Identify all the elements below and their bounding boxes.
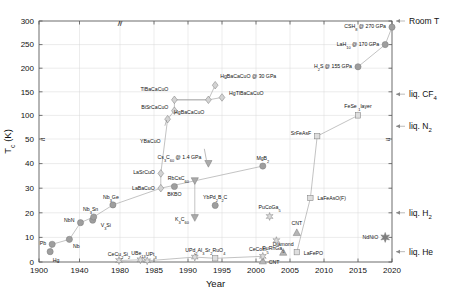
point-label-ybacuo: YBaCuO	[140, 138, 160, 144]
data-point-cnt-high	[293, 229, 300, 236]
svg-text:1980: 1980	[111, 266, 129, 275]
svg-text:Room T: Room T	[409, 16, 439, 26]
point-label-sr2ruo4: Sr2RuO4	[205, 247, 226, 256]
svg-text:250: 250	[21, 40, 35, 49]
point-label-bkbo: BKBO	[167, 191, 181, 197]
data-point-tlbacacuo	[172, 96, 178, 104]
point-label-lafepo: LaFePO	[304, 250, 323, 256]
point-label-pucoga5: PuCoGa5	[259, 204, 281, 213]
svg-text:liq. CF4: liq. CF4	[409, 89, 438, 101]
svg-text:Year: Year	[206, 278, 225, 289]
data-point-sr2ruo4	[213, 256, 218, 261]
point-label-srfeasf: SrFeAsF	[291, 130, 311, 136]
svg-text:300: 300	[21, 17, 35, 26]
point-label-fese1layer: FeSe 1layer	[344, 103, 372, 112]
point-label-hg: Hg	[53, 257, 60, 263]
svg-text:1940: 1940	[71, 266, 89, 275]
point-label-nbn: NbN	[64, 217, 75, 223]
data-point-h2s	[355, 64, 361, 70]
superconductor-timeline-chart: 1900194019801985199019952000200520102015…	[0, 0, 454, 299]
svg-text:10: 10	[25, 233, 34, 242]
svg-text:2020: 2020	[383, 266, 401, 275]
svg-text:30: 30	[25, 184, 34, 193]
svg-text:100: 100	[21, 111, 35, 120]
svg-text:Tc (K): Tc (K)	[2, 129, 16, 154]
point-label-cnt-high: CNT	[291, 220, 302, 226]
data-point-srfeasf	[315, 133, 320, 138]
point-label-bisrcacuo: BiSrCaCuO	[141, 104, 168, 110]
point-label-lasrcuo: LaSrCuO	[133, 169, 155, 175]
data-point-lafeasof	[308, 195, 313, 200]
point-label-nb3ge: Nb3Ge	[103, 194, 119, 203]
point-label-cs3c60: Cs3C60 @ 1.4 GPa	[158, 154, 202, 163]
svg-text:2005: 2005	[281, 266, 299, 275]
data-point-hg	[47, 249, 53, 255]
svg-text:≈: ≈	[386, 135, 391, 144]
svg-text:20: 20	[25, 209, 34, 218]
point-label-mgb2: MgB2	[256, 155, 269, 164]
svg-text:≈: ≈	[41, 135, 46, 144]
data-point-labacuo	[158, 184, 164, 192]
svg-text:liq. N2: liq. N2	[409, 121, 432, 133]
chart-svg: 1900194019801985199019952000200520102015…	[0, 0, 454, 299]
point-label-hgbacacuo30gpa: HgBaCaCuO @ 30 GPa	[220, 73, 276, 79]
point-label-hgtlbacacuo: HgTlBaCaCuO	[229, 90, 264, 96]
svg-text://: //	[118, 19, 123, 28]
point-label-pb: Pb	[40, 240, 46, 246]
svg-text:2010: 2010	[315, 266, 333, 275]
svg-text:2015: 2015	[349, 266, 367, 275]
svg-text:2000: 2000	[247, 266, 265, 275]
svg-text:liq. He: liq. He	[409, 247, 433, 257]
point-label-rbcsc60: RbCsC60	[168, 175, 190, 184]
data-point-nb3sn	[91, 214, 97, 220]
point-label-nb3sn: Nb3Sn	[83, 206, 98, 215]
data-point-pucoga5	[266, 213, 273, 221]
point-label-tlbacacuo: TlBaCaCuO	[140, 86, 168, 92]
svg-text:200: 200	[21, 64, 35, 73]
point-label-nbc: V3Si	[101, 222, 111, 231]
svg-text:40: 40	[25, 159, 34, 168]
point-label-nb: Nb	[73, 243, 80, 249]
data-point-lah10	[382, 42, 388, 48]
data-point-k3c60	[191, 215, 198, 222]
svg-text:1990: 1990	[179, 266, 197, 275]
svg-text:1995: 1995	[213, 266, 231, 275]
point-label-h2s: H2S @ 155 GPa	[314, 63, 352, 72]
point-label-ndnio: NdNiO	[363, 234, 379, 240]
data-point-lafepo	[294, 249, 299, 254]
point-label-cnt-low: CNT	[269, 259, 280, 265]
data-point-pb	[49, 241, 55, 247]
svg-text:150: 150	[21, 88, 35, 97]
svg-text:0: 0	[30, 258, 35, 267]
point-label-csh8: CSH8 @ 270 GPa	[344, 23, 386, 32]
data-point-ybpd2b2c	[212, 202, 218, 208]
point-label-labacuo: LaBaCuO	[132, 185, 155, 191]
data-point-fese1layer	[355, 113, 360, 118]
data-point-nbn	[77, 220, 83, 226]
svg-text:50: 50	[25, 135, 34, 144]
point-label-hgbacacuo: HgBaCaCuO	[174, 109, 204, 115]
data-point-nb	[66, 236, 72, 242]
point-label-ybpd2b2c: YbPd2B2C	[203, 194, 228, 203]
data-point-hgtlbacacuo	[219, 94, 225, 102]
svg-text:1900: 1900	[30, 266, 48, 275]
data-point-csh8	[389, 24, 395, 30]
svg-text:liq. H2: liq. H2	[409, 208, 432, 220]
data-point-hgbacacuo	[206, 96, 212, 104]
point-label-ube13: UBe13	[131, 250, 145, 259]
data-point-nb3ge	[110, 202, 116, 208]
data-point-lasrcuo	[158, 170, 164, 178]
data-point-mgb2	[260, 163, 266, 169]
data-point-bkbo	[171, 183, 177, 189]
svg-text:1985: 1985	[145, 266, 163, 275]
point-label-k3c60: K3C60	[175, 216, 190, 225]
point-label-lafeasof: LaFeAsO(F)	[317, 195, 346, 201]
data-point-hgbacacuo30gpa	[212, 81, 218, 89]
